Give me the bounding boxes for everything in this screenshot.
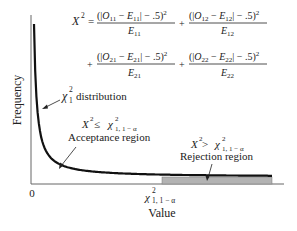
svg-text:2: 2 — [69, 85, 73, 94]
formula-term-21: (|O21 − E21| − .5)2 E21 — [97, 50, 175, 80]
rejection-region-shading — [162, 177, 272, 184]
svg-text:E22: E22 — [220, 67, 235, 80]
svg-text:2: 2 — [115, 115, 119, 123]
formula: X 2 = (|O11 − E11| − .5)2 E11 + (|O12 − … — [71, 9, 267, 80]
rejection-region-label: Rejection region — [180, 150, 254, 162]
distribution-arrow-head — [42, 105, 48, 110]
x-tick-critical-value: χ 2 1, 1 − α — [144, 186, 175, 205]
formula-term-12: (|O12 − E12| − .5)2 E12 — [189, 9, 267, 38]
svg-text:1, 1 − α: 1, 1 − α — [152, 196, 175, 205]
svg-text:>: > — [202, 138, 208, 150]
svg-text:X: X — [81, 118, 90, 130]
svg-text:distribution: distribution — [76, 90, 127, 102]
svg-text:≤: ≤ — [94, 118, 100, 130]
svg-text:2: 2 — [81, 11, 85, 20]
svg-text:X: X — [190, 138, 199, 150]
svg-text:χ: χ — [107, 118, 114, 130]
svg-text:2: 2 — [152, 186, 156, 195]
formula-term-11: (|O11 − E11| − .5)2 E11 — [97, 9, 175, 38]
svg-text:2: 2 — [222, 135, 226, 143]
svg-text:(|O11 − E11| − .5)2: (|O11 − E11| − .5)2 — [97, 9, 167, 23]
chi-square-diagram: Frequency 0 χ 2 1, 1 − α Value X 2 = (|O… — [0, 0, 297, 231]
svg-text:E21: E21 — [127, 67, 142, 80]
distribution-label: χ 2 1 distribution — [61, 85, 127, 105]
svg-text:(|O12 − E12| − .5)2: (|O12 − E12| − .5)2 — [189, 9, 260, 23]
svg-text:1: 1 — [69, 96, 73, 105]
formula-term-22: (|O22 − E22| − .5)2 E22 — [189, 50, 267, 80]
svg-text:X: X — [71, 14, 80, 28]
svg-text:E12: E12 — [220, 25, 235, 38]
svg-text:+: + — [179, 59, 185, 70]
x-axis-label: Value — [148, 206, 175, 220]
svg-text:+: + — [87, 59, 93, 70]
y-axis-label: Frequency — [10, 75, 24, 126]
acceptance-region-label: Acceptance region — [68, 131, 151, 143]
svg-text:=: = — [88, 15, 94, 27]
svg-text:+: + — [179, 18, 185, 29]
x-tick-zero: 0 — [29, 187, 35, 199]
svg-text:χ: χ — [144, 191, 151, 203]
svg-text:χ: χ — [214, 138, 221, 150]
svg-text:(|O22 − E22| − .5)2: (|O22 − E22| − .5)2 — [189, 50, 260, 64]
acceptance-arrow — [61, 147, 76, 166]
svg-text:χ: χ — [61, 89, 68, 103]
svg-text:E11: E11 — [127, 25, 141, 38]
svg-text:(|O21 − E21| − .5)2: (|O21 − E21| − .5)2 — [97, 50, 168, 64]
